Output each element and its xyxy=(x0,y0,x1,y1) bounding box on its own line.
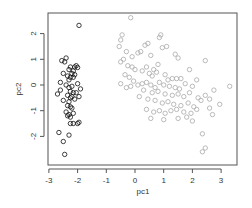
data-point xyxy=(144,65,148,69)
data-point xyxy=(176,116,180,120)
data-point xyxy=(207,106,211,110)
data-point xyxy=(58,88,62,92)
x-axis-label: pc1 xyxy=(137,187,150,196)
data-point xyxy=(152,110,156,114)
data-point xyxy=(182,110,186,114)
x-tick-label: 0 xyxy=(133,176,138,185)
data-point xyxy=(150,91,154,95)
data-point xyxy=(157,35,161,39)
data-point xyxy=(183,82,187,86)
data-point xyxy=(195,78,199,82)
data-point xyxy=(152,67,156,71)
data-point xyxy=(199,98,203,102)
data-point xyxy=(174,107,178,111)
data-point xyxy=(228,84,232,88)
data-point xyxy=(190,84,194,88)
data-point xyxy=(67,67,71,71)
data-point xyxy=(207,97,211,101)
data-point xyxy=(144,107,148,111)
data-point xyxy=(61,98,65,102)
plot-frame xyxy=(48,13,237,165)
data-point xyxy=(200,150,204,154)
data-point xyxy=(140,69,144,73)
data-point xyxy=(61,139,65,143)
y-tick-label: -1 xyxy=(29,107,38,115)
data-point xyxy=(186,101,190,105)
y-tick-label: 0 xyxy=(29,82,38,87)
data-point xyxy=(78,87,82,91)
data-point xyxy=(170,93,174,97)
data-point xyxy=(65,93,69,97)
x-tick-label: 2 xyxy=(190,176,195,185)
data-point xyxy=(77,23,81,27)
data-point xyxy=(169,109,173,113)
data-point xyxy=(173,85,177,89)
data-point xyxy=(157,80,161,84)
data-point xyxy=(190,119,194,123)
data-point xyxy=(160,46,164,50)
data-point xyxy=(127,75,131,79)
data-point xyxy=(136,83,140,87)
data-point xyxy=(154,70,158,74)
data-point xyxy=(156,89,160,93)
data-point xyxy=(130,65,134,69)
data-point xyxy=(159,33,163,37)
y-axis-label: pc2 xyxy=(14,82,23,95)
data-point xyxy=(117,44,121,48)
y-axis: -2-1012 xyxy=(29,31,44,140)
data-point xyxy=(121,57,125,61)
data-point xyxy=(71,75,75,79)
data-point xyxy=(174,76,178,80)
data-point xyxy=(67,133,71,137)
data-point xyxy=(157,109,161,113)
data-point xyxy=(170,76,174,80)
data-point xyxy=(218,102,222,106)
series-group2 xyxy=(117,16,232,155)
x-tick-label: -2 xyxy=(74,176,82,185)
data-point xyxy=(67,78,71,82)
data-point xyxy=(166,78,170,82)
data-point xyxy=(147,71,151,75)
data-point xyxy=(182,94,186,98)
data-point xyxy=(150,74,154,78)
data-point xyxy=(141,88,145,92)
data-point xyxy=(144,80,148,84)
data-point xyxy=(160,101,164,105)
data-point xyxy=(64,83,68,87)
data-point xyxy=(172,102,176,106)
data-point xyxy=(131,79,135,83)
x-tick-label: 1 xyxy=(161,176,166,185)
data-point xyxy=(195,107,199,111)
data-point xyxy=(124,85,128,89)
data-point xyxy=(55,92,59,96)
data-point xyxy=(74,91,78,95)
data-point xyxy=(187,67,191,71)
data-point xyxy=(149,53,153,57)
data-point xyxy=(123,73,127,77)
data-point xyxy=(149,116,153,120)
data-point xyxy=(61,71,65,75)
data-point xyxy=(153,98,157,102)
data-point xyxy=(129,84,133,88)
data-point xyxy=(210,112,214,116)
data-point xyxy=(153,85,157,89)
data-point xyxy=(177,87,181,91)
data-point xyxy=(187,91,191,95)
data-point xyxy=(65,103,69,107)
data-point xyxy=(57,130,61,134)
data-point xyxy=(120,33,124,37)
data-point xyxy=(163,111,167,115)
y-tick-label: 1 xyxy=(29,57,38,62)
x-tick-label: -3 xyxy=(45,176,53,185)
data-point xyxy=(73,97,77,101)
data-point xyxy=(189,111,193,115)
data-point xyxy=(179,103,183,107)
data-point xyxy=(58,80,62,84)
data-point xyxy=(173,52,177,56)
data-point xyxy=(149,83,153,87)
data-point xyxy=(68,65,72,69)
data-point xyxy=(140,82,144,86)
data-point xyxy=(68,121,72,125)
data-point xyxy=(163,92,167,96)
y-tick-label: 2 xyxy=(29,31,38,36)
